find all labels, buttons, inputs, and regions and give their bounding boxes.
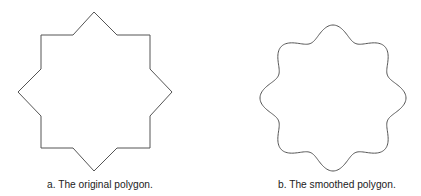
original-polygon: [18, 12, 172, 171]
caption-smoothed-polygon: b. The smoothed polygon.: [278, 179, 396, 190]
caption-original-polygon: a. The original polygon.: [47, 179, 153, 190]
figure-canvas: [0, 0, 421, 196]
smoothed-polygon: [260, 25, 406, 171]
